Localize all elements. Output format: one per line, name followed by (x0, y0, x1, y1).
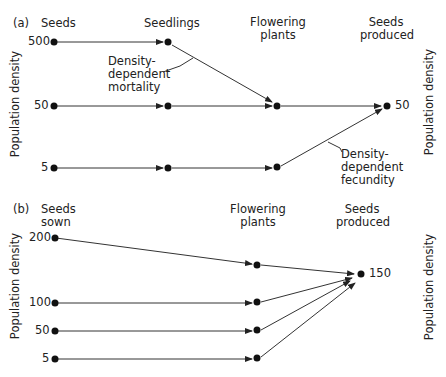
stage-seeds-produced-b: Seeds produced (336, 203, 388, 229)
arrow-5-flowering-to-seeds (261, 283, 355, 357)
y-axis-label-left-a: Population density (8, 49, 22, 159)
stage-flowering-plants-b: Flowering plants (230, 203, 286, 229)
y-axis-label-right-a: Population density (422, 47, 436, 157)
value-5-b: 5 (42, 352, 49, 365)
panel-b-arrows (56, 238, 355, 359)
arrow-50-flowering-to-seeds (261, 281, 350, 330)
value-500: 500 (28, 35, 50, 48)
value-5: 5 (41, 161, 48, 174)
stage-seeds-sown: Seeds sown (41, 203, 76, 229)
value-final-150: 150 (369, 267, 391, 280)
panel-a-dots (51, 39, 391, 172)
value-100: 100 (29, 296, 51, 309)
stage-seeds: Seeds (41, 17, 76, 30)
annotation-density-dependent-mortality: Density- dependent mortality (108, 55, 170, 94)
panel-a-label: (a) (13, 17, 29, 30)
y-axis-label-right-b: Population density (422, 232, 436, 342)
y-axis-label-left-b: Population density (8, 231, 22, 341)
stage-flowering-plants: Flowering plants (250, 16, 306, 42)
fecundity-leader-line (328, 142, 342, 152)
stage-seeds-produced: Seeds produced (360, 16, 412, 42)
annotation-density-dependent-fecundity: Density- dependent fecundity (341, 148, 403, 187)
value-50: 50 (34, 99, 49, 112)
stage-seedlings: Seedlings (144, 17, 200, 30)
panel-a-arrows (55, 42, 382, 168)
arrow-200-sown-to-flowering (56, 238, 252, 264)
arrow-100-flowering-to-seeds (261, 278, 352, 302)
value-final-50: 50 (395, 99, 410, 112)
panel-b-label: (b) (13, 203, 29, 216)
diagram-canvas (0, 0, 446, 377)
arrow-200-flowering-to-seeds (261, 265, 354, 274)
value-50-b: 50 (35, 324, 50, 337)
value-200: 200 (29, 231, 51, 244)
arrow-500-seedlings-to-flowering (172, 45, 272, 102)
